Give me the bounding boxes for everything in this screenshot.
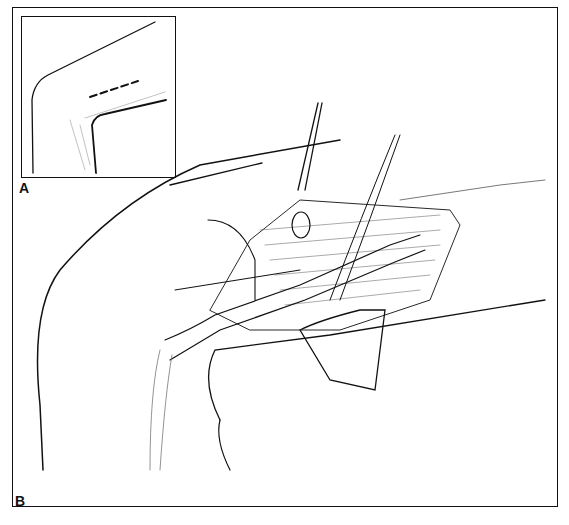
illustration	[0, 0, 569, 525]
